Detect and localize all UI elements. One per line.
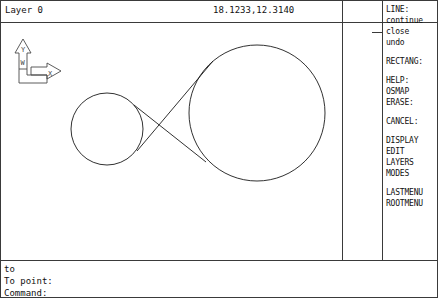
ucs-corner-inner [27,69,47,75]
menu-item-help[interactable]: HELP: [386,75,438,86]
menu-item-erase[interactable]: ERASE: [386,97,438,108]
menu-separator-3 [386,108,438,116]
menu-separator-2 [386,67,438,75]
drawing-canvas[interactable]: Y W X [1,23,382,260]
ucs-x-label: X [48,70,53,78]
command-input-line[interactable]: Command: [4,287,438,298]
menu-item-close[interactable]: close [386,26,438,37]
ucs-y-label: Y [21,46,26,54]
ucs-w-label: W [21,59,26,67]
menu-item-cancel[interactable]: CANCEL: [386,116,438,127]
status-bar-divider-1 [342,1,343,23]
menu-item-display[interactable]: DISPLAY [386,135,438,146]
menu-pointer-tick [372,32,382,33]
menu-item-rectang[interactable]: RECTANG: [386,56,438,67]
menu-item-layers[interactable]: LAYERS [386,157,438,168]
layer-indicator[interactable]: Layer 0 [5,5,43,15]
menu-item-lastmenu[interactable]: LASTMENU [386,187,438,198]
autocad-window: Layer 0 18.1233,12.3140 [0,0,438,298]
menu-separator-1 [386,48,438,56]
drawing-area[interactable]: Y W X [1,23,382,260]
ucs-x-arrow [31,63,61,79]
menu-item-undo[interactable]: undo [386,37,438,48]
screen-menu-panel[interactable]: LINE: continue close undo RECTANG: HELP:… [382,1,438,260]
menu-item-modes[interactable]: MODES [386,168,438,179]
small-circle[interactable] [71,93,143,165]
coordinate-readout[interactable]: 18.1233,12.3140 [213,5,294,15]
menu-item-osnap[interactable]: OSMAP [386,86,438,97]
menu-item-continue[interactable]: continue [386,15,438,26]
ucs-corner-box [19,69,47,83]
drawing-area-right-divider [342,23,343,260]
command-prompt-area[interactable]: to To point: Command: [1,260,438,298]
tangent-line-upper[interactable] [134,105,206,162]
command-history-line-2: To point: [4,275,438,287]
menu-separator-5 [386,179,438,187]
menu-item-rootmenu[interactable]: ROOTMENU [386,198,438,209]
status-bar: Layer 0 18.1233,12.3140 [1,1,438,23]
menu-item-line[interactable]: LINE: [386,4,438,15]
menu-item-edit[interactable]: EDIT [386,146,438,157]
command-history-line-1: to [4,263,438,275]
menu-separator-4 [386,127,438,135]
